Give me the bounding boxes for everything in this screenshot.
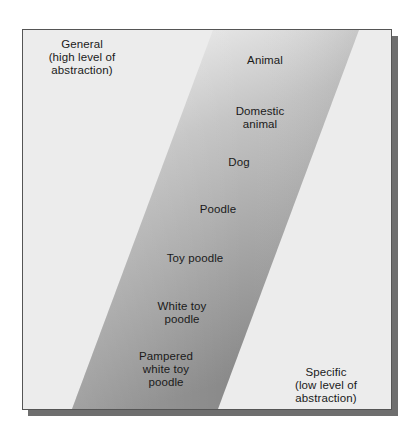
ladder-item-white-toy-poodle: White toy poodle (158, 300, 207, 326)
abstraction-band (23, 30, 391, 409)
diagram-frame (22, 29, 392, 410)
ladder-item-poodle: Poodle (200, 203, 236, 216)
ladder-item-dog: Dog (228, 156, 249, 169)
ladder-item-toy-poodle: Toy poodle (167, 252, 224, 265)
ladder-item-animal: Animal (247, 54, 283, 67)
specific-label: Specific (low level of abstraction) (295, 366, 357, 405)
ladder-item-domestic-animal: Domestic animal (236, 105, 285, 131)
general-label: General (high level of abstraction) (49, 38, 116, 77)
ladder-item-pampered-white-toy-poodle: Pampered white toy poodle (139, 350, 193, 389)
